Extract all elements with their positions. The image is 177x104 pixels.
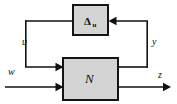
signal-label-w: w <box>8 66 15 77</box>
block-diagram-canvas: Δ u N u y w z <box>0 0 177 104</box>
signal-label-u: u <box>22 36 27 47</box>
delta-block[interactable]: Δ u <box>73 5 108 35</box>
n-block-label: N <box>84 71 95 86</box>
signal-label-y: y <box>151 36 157 47</box>
signal-label-z: z <box>157 69 162 80</box>
wire-w-path <box>5 83 64 91</box>
arrowhead-z-out <box>163 83 171 91</box>
delta-block-label: Δ <box>84 15 91 27</box>
block-diagram-svg: Δ u N u y w z <box>0 0 177 104</box>
n-block[interactable]: N <box>63 58 118 100</box>
delta-block-subscript: u <box>93 21 97 29</box>
arrowhead-y-into-delta <box>109 17 117 25</box>
wire-z-path <box>117 83 171 91</box>
